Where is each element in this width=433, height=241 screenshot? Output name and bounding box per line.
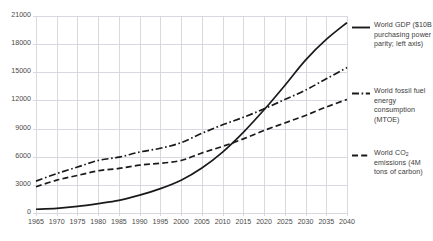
co2-subscript: 2 [406, 151, 409, 157]
y-axis-tick-label: 6000 [15, 152, 31, 160]
legend-label-world-gdp: World GDP ($10B purchasing power parity;… [374, 21, 433, 50]
y-axis-tick-label: 18000 [11, 39, 31, 47]
legend-label-co2-emissions: World CO2 emissions (4M tons of carbon) [374, 149, 433, 178]
legend-entry-co2-emissions: World CO2 emissions (4M tons of carbon) [374, 149, 433, 178]
legend-label-fossil-fuel: World fossil fuel energy consumption (MT… [374, 87, 433, 125]
line-chart [0, 0, 433, 241]
y-axis-tick-label: 15000 [11, 67, 31, 75]
chart-legend: World GDP ($10B purchasing power parity;… [374, 0, 433, 241]
plot-background [36, 16, 347, 213]
y-axis-tick-label: 12000 [11, 95, 31, 103]
y-axis-tick-label: 9000 [15, 124, 31, 132]
y-axis-tick-label: 0 [27, 208, 31, 216]
y-axis-tick-label: 3000 [15, 180, 31, 188]
legend-entry-world-gdp: World GDP ($10B purchasing power parity;… [374, 21, 433, 50]
legend-entry-fossil-fuel: World fossil fuel energy consumption (MT… [374, 87, 433, 125]
y-axis-tick-label: 21000 [11, 11, 31, 19]
legend-swatches [352, 28, 370, 156]
x-axis-tick-label: 2040 [335, 218, 359, 226]
chart-figure: 0300060009000120001500018000210001965197… [0, 0, 433, 241]
